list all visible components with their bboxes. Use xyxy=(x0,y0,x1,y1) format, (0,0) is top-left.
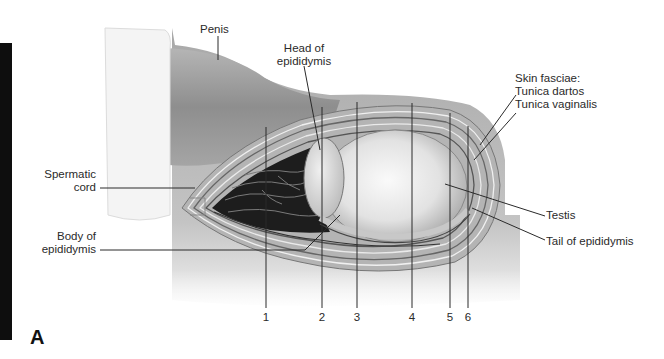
head-of-epididymis-shape xyxy=(304,138,344,218)
label-head-of-epididymis: Head of epididymis xyxy=(272,42,336,68)
layer-number-5: 5 xyxy=(447,311,453,323)
label-skin-fasciae: Skin fasciae: Tunica dartos Tunica vagin… xyxy=(515,72,597,111)
layer-number-4: 4 xyxy=(409,311,415,323)
drape xyxy=(105,28,170,220)
label-tail-of-epididymis: Tail of epididymis xyxy=(546,235,634,248)
layer-number-6: 6 xyxy=(465,311,471,323)
label-penis: Penis xyxy=(200,23,229,36)
panel-label: A xyxy=(30,326,44,349)
layer-number-2: 2 xyxy=(319,311,325,323)
label-testis: Testis xyxy=(546,209,575,222)
layer-number-3: 3 xyxy=(354,311,360,323)
label-body-of-epididymis: Body of epididymis xyxy=(20,230,96,256)
layer-number-1: 1 xyxy=(263,311,269,323)
label-spermatic-cord: Spermatic cord xyxy=(20,168,96,194)
